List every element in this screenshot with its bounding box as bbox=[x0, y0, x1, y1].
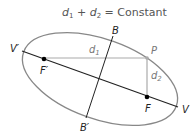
ellipse-diagram: d1 + d2 = Constant V′ V F′ F B B′ P d1 d… bbox=[0, 0, 192, 138]
focus-right-point bbox=[145, 95, 150, 100]
label-covertex-bottom: B′ bbox=[80, 122, 90, 133]
diagram-title: d1 + d2 = Constant bbox=[62, 6, 167, 20]
label-point-p: P bbox=[151, 45, 158, 56]
label-covertex-top: B bbox=[112, 25, 119, 36]
point-p bbox=[145, 56, 149, 60]
focus-left-point bbox=[42, 57, 47, 62]
label-focus-left: F′ bbox=[40, 65, 49, 76]
label-vertex-left: V′ bbox=[10, 43, 20, 54]
label-vertex-right: V bbox=[182, 104, 190, 115]
label-d2: d2 bbox=[151, 70, 162, 83]
label-focus-right: F bbox=[145, 103, 151, 114]
label-d1: d1 bbox=[89, 44, 100, 57]
